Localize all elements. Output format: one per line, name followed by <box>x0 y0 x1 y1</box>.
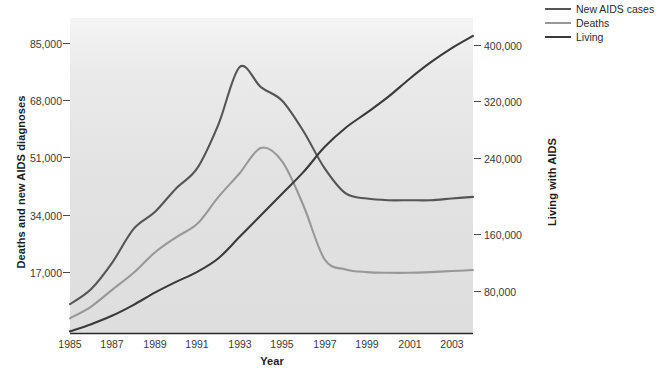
ytick-right-160000: 160,000 <box>484 229 546 241</box>
y-axis-left-title: Deaths and new AIDS diagnoses <box>15 82 27 282</box>
ytick-right-400000: 400,000 <box>484 40 546 52</box>
ytick-mark-right-1 <box>474 291 481 292</box>
xtick-1995: 1995 <box>260 338 304 350</box>
ytick-mark-right-2 <box>474 234 481 235</box>
xtick-1985: 1985 <box>48 338 92 350</box>
legend-swatch-new-aids-cases <box>545 8 571 10</box>
chart-figure: 85,000 68,000 51,000 34,000 17,000 400,0… <box>0 0 659 373</box>
legend-item-new-aids-cases: New AIDS cases <box>545 2 659 15</box>
plot-area <box>0 0 659 373</box>
ytick-mark-left-4 <box>63 100 70 101</box>
ytick-mark-left-3 <box>63 157 70 158</box>
legend-label-living: Living <box>576 31 603 43</box>
ytick-mark-left-2 <box>63 215 70 216</box>
ytick-mark-right-3 <box>474 158 481 159</box>
legend-item-deaths: Deaths <box>545 16 659 29</box>
ytick-right-80000: 80,000 <box>484 286 546 298</box>
ytick-left-85000: 85,000 <box>6 38 62 50</box>
xtick-2001: 2001 <box>388 338 432 350</box>
chart-legend: New AIDS cases Deaths Living <box>545 2 659 44</box>
ytick-right-320000: 320,000 <box>484 96 546 108</box>
legend-item-living: Living <box>545 30 659 43</box>
x-axis-title: Year <box>70 355 474 367</box>
plot-background <box>70 18 473 333</box>
legend-label-new-aids-cases: New AIDS cases <box>576 3 654 15</box>
legend-swatch-living <box>545 36 571 38</box>
ytick-right-240000: 240,000 <box>484 153 546 165</box>
xtick-1999: 1999 <box>345 338 389 350</box>
ytick-mark-right-4 <box>474 101 481 102</box>
ytick-mark-right-5 <box>474 45 481 46</box>
xtick-1997: 1997 <box>303 338 347 350</box>
xtick-1991: 1991 <box>175 338 219 350</box>
xtick-2003: 2003 <box>430 338 474 350</box>
xtick-1989: 1989 <box>133 338 177 350</box>
ytick-mark-left-5 <box>63 43 70 44</box>
xtick-1993: 1993 <box>218 338 262 350</box>
legend-label-deaths: Deaths <box>576 17 609 29</box>
ytick-mark-left-1 <box>63 272 70 273</box>
legend-swatch-deaths <box>545 22 571 24</box>
y-axis-right-title: Living with AIDS <box>546 82 558 282</box>
xtick-1987: 1987 <box>90 338 134 350</box>
